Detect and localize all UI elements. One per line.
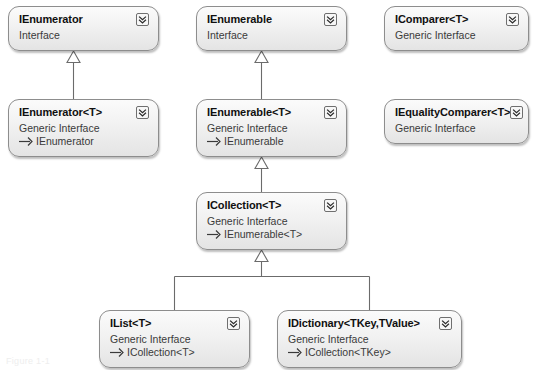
class-box-icomparer[interactable]: IComparer<T> Generic Interface bbox=[384, 6, 529, 51]
generalization-triangle-icollectionT bbox=[255, 250, 268, 262]
class-title: IEnumerable bbox=[207, 13, 337, 26]
expand-chevrons-icon[interactable] bbox=[506, 13, 519, 26]
class-title: IDictionary<TKey,TValue> bbox=[288, 317, 452, 330]
class-stereotype: Generic Interface bbox=[288, 333, 452, 346]
expand-chevrons-icon[interactable] bbox=[510, 106, 523, 119]
implements-arrow-icon bbox=[207, 136, 222, 147]
class-stereotype: Generic Interface bbox=[395, 29, 519, 42]
class-base-interface: IEnumerable bbox=[207, 135, 337, 148]
class-box-idictionary[interactable]: IDictionary<TKey,TValue> Generic Interfa… bbox=[277, 310, 462, 368]
class-box-ienumerable-t[interactable]: IEnumerable<T> Generic Interface IEnumer… bbox=[196, 99, 347, 157]
expand-chevrons-icon[interactable] bbox=[439, 317, 452, 330]
class-base-label: ICollection<T> bbox=[127, 346, 195, 359]
class-title: IEqualityComparer<T> bbox=[395, 106, 519, 119]
class-stereotype: Interface bbox=[19, 29, 149, 42]
class-base-label: IEnumerator bbox=[36, 135, 94, 148]
class-box-icollection-t[interactable]: ICollection<T> Generic Interface IEnumer… bbox=[196, 192, 347, 250]
class-title: IList<T> bbox=[110, 317, 240, 330]
implements-arrow-icon bbox=[19, 136, 34, 147]
generalization-triangle-ienumerable bbox=[255, 51, 268, 63]
expand-chevrons-icon[interactable] bbox=[324, 106, 337, 119]
class-box-ilist-t[interactable]: IList<T> Generic Interface ICollection<T… bbox=[99, 310, 250, 368]
class-stereotype: Interface bbox=[207, 29, 337, 42]
class-base-interface: IEnumerable<T> bbox=[207, 228, 337, 241]
class-stereotype: Generic Interface bbox=[110, 333, 240, 346]
class-stereotype: Generic Interface bbox=[395, 122, 519, 135]
class-base-interface: ICollection<T> bbox=[110, 346, 240, 359]
generalization-triangle-ienumerableT bbox=[255, 157, 268, 169]
implements-arrow-icon bbox=[110, 347, 125, 358]
implements-arrow-icon bbox=[207, 229, 222, 240]
expand-chevrons-icon[interactable] bbox=[227, 317, 240, 330]
class-base-interface: ICollection<TKey> bbox=[288, 346, 452, 359]
class-base-label: IEnumerable<T> bbox=[224, 228, 302, 241]
class-title: IEnumerator<T> bbox=[19, 106, 149, 119]
class-box-ienumerator-t[interactable]: IEnumerator<T> Generic Interface IEnumer… bbox=[8, 99, 159, 157]
expand-chevrons-icon[interactable] bbox=[136, 106, 149, 119]
class-box-iequalitycomparer[interactable]: IEqualityComparer<T> Generic Interface bbox=[384, 99, 529, 144]
class-base-label: IEnumerable bbox=[224, 135, 284, 148]
class-stereotype: Generic Interface bbox=[207, 215, 337, 228]
class-base-label: ICollection<TKey> bbox=[305, 346, 391, 359]
class-title: IEnumerator bbox=[19, 13, 149, 26]
figure-caption: Figure 1-1 bbox=[6, 356, 50, 366]
class-box-ienumerator[interactable]: IEnumerator Interface bbox=[8, 6, 159, 51]
implements-arrow-icon bbox=[288, 347, 303, 358]
class-box-ienumerable[interactable]: IEnumerable Interface bbox=[196, 6, 347, 51]
class-title: ICollection<T> bbox=[207, 199, 337, 212]
class-title: IComparer<T> bbox=[395, 13, 519, 26]
expand-chevrons-icon[interactable] bbox=[324, 199, 337, 212]
class-stereotype: Generic Interface bbox=[19, 122, 149, 135]
expand-chevrons-icon[interactable] bbox=[324, 13, 337, 26]
generalization-triangle-ienumerator bbox=[67, 51, 80, 63]
uml-diagram-canvas: IEnumerator Interface IEnumerable Interf… bbox=[0, 0, 537, 370]
class-stereotype: Generic Interface bbox=[207, 122, 337, 135]
class-base-interface: IEnumerator bbox=[19, 135, 149, 148]
expand-chevrons-icon[interactable] bbox=[136, 13, 149, 26]
class-title: IEnumerable<T> bbox=[207, 106, 337, 119]
